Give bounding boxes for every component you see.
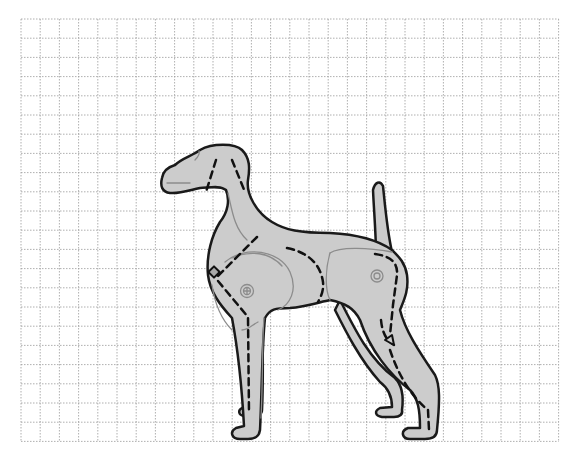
dog-figure bbox=[161, 145, 439, 439]
diagram-canvas bbox=[0, 0, 588, 467]
